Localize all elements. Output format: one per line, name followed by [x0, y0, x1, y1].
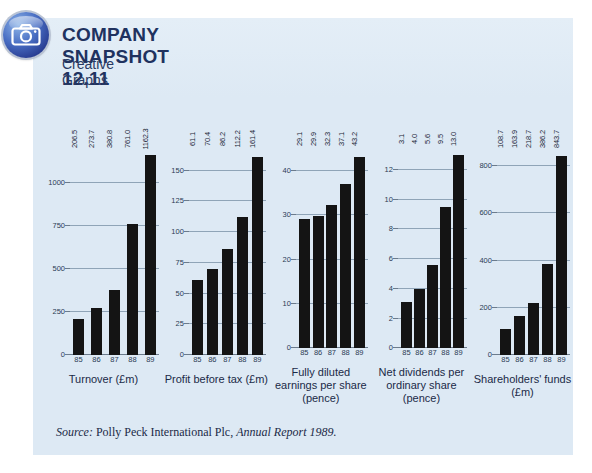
- y-tick-label: 600: [479, 208, 492, 217]
- y-tick-label: 10: [385, 194, 393, 203]
- chart-net-dividends: 024681012 3.14.05.69.513.0 8586878889 Ne…: [372, 140, 471, 405]
- bar-value-label: 206.5: [70, 130, 79, 148]
- x-labels-4: 8586878889: [398, 348, 467, 360]
- bar-group: 386.2: [542, 140, 553, 355]
- y-tick-label: 10: [283, 299, 291, 308]
- y-tick-label: 0: [488, 350, 492, 359]
- bar-group: 843.7: [556, 140, 567, 355]
- chart-caption-3: Fully diluted earnings per share (pence): [270, 366, 372, 405]
- bar: 5.6: [427, 265, 438, 348]
- bar: 218.7: [528, 303, 539, 355]
- bars-1: 206.5273.7380.8761.01162.3: [70, 140, 159, 355]
- bar-value-label: 29.1: [295, 132, 304, 146]
- y-tick-label: 150: [171, 165, 184, 174]
- plot-area-1: 02505007501000 206.5273.7380.8761.01162.…: [70, 140, 159, 355]
- bar-group: 29.9: [313, 140, 324, 348]
- y-tick-label: 8: [389, 224, 393, 233]
- x-tick-label: 89: [252, 355, 263, 367]
- bar-group: 61.1: [192, 140, 203, 355]
- bar-group: 1162.3: [145, 140, 156, 355]
- y-tick-label: 100: [171, 227, 184, 236]
- x-tick-label: 89: [453, 348, 464, 360]
- bar: 43.2: [354, 157, 365, 349]
- bar-value-label: 29.9: [309, 132, 318, 146]
- bar: 32.3: [326, 205, 337, 348]
- bar-value-label: 70.4: [203, 132, 212, 146]
- x-tick-label: 87: [109, 355, 120, 367]
- x-tick-label: 87: [222, 355, 233, 367]
- x-labels-5: 8586878889: [497, 355, 570, 367]
- bar-value-label: 43.2: [350, 132, 359, 146]
- bar-value-label: 161.4: [248, 130, 257, 148]
- chart-fully-diluted-earnings: 010203040 29.129.932.337.143.2 858687888…: [270, 140, 372, 405]
- plot-area-5: 0200400600800 108.7163.9218.7386.2843.7: [497, 140, 570, 355]
- bar-value-label: 4.0: [410, 134, 419, 144]
- chart-shareholders-funds: 0200400600800 108.7163.9218.7386.2843.7 …: [471, 140, 574, 405]
- bar-group: 218.7: [528, 140, 539, 355]
- bar: 108.7: [500, 329, 511, 355]
- bar-group: 37.1: [340, 140, 351, 348]
- y-tick-label: 500: [52, 264, 65, 273]
- bar-value-label: 9.5: [436, 134, 445, 144]
- y-tick-label: 50: [176, 288, 184, 297]
- y-tick-label: 125: [171, 196, 184, 205]
- y-tick-label: 750: [52, 221, 65, 230]
- bar-value-label: 13.0: [449, 132, 458, 146]
- bar-group: 206.5: [73, 140, 84, 355]
- chart-caption-4: Net dividends per ordinary share (pence): [372, 366, 471, 405]
- x-tick-label: 89: [354, 348, 365, 360]
- x-tick-label: 86: [414, 348, 425, 360]
- camera-icon: [3, 12, 49, 58]
- bars-2: 61.170.486.2112.2161.4: [189, 140, 266, 355]
- bar-group: 29.1: [299, 140, 310, 348]
- bar: 161.4: [252, 157, 263, 355]
- x-tick-label: 88: [340, 348, 351, 360]
- y-tick-label: 0: [389, 343, 393, 352]
- bar: 3.1: [401, 302, 412, 348]
- plot-area-3: 010203040 29.129.932.337.143.2: [296, 140, 368, 348]
- y-tick-label: 0: [287, 343, 291, 352]
- bar-group: 161.4: [252, 140, 263, 355]
- chart-profit-before-tax: 0255075100125150 61.170.486.2112.2161.4 …: [163, 140, 270, 405]
- x-tick-label: 89: [556, 355, 567, 367]
- bar: 86.2: [222, 249, 233, 355]
- bar-group: 108.7: [500, 140, 511, 355]
- y-tick-label: 20: [283, 254, 291, 263]
- x-labels-3: 8586878889: [296, 348, 368, 360]
- y-tick-label: 1000: [48, 178, 65, 187]
- bar-value-label: 761.0: [123, 130, 132, 148]
- bar-value-label: 108.7: [496, 130, 505, 148]
- y-tick-label: 0: [180, 350, 184, 359]
- plot-area-2: 0255075100125150 61.170.486.2112.2161.4: [189, 140, 266, 355]
- bar-group: 9.5: [440, 140, 451, 348]
- bar: 273.7: [91, 308, 102, 355]
- bar: 29.9: [313, 216, 324, 349]
- x-tick-label: 85: [299, 348, 310, 360]
- x-tick-label: 87: [326, 348, 337, 360]
- y-tick-label: 25: [176, 319, 184, 328]
- y-tick-label: 6: [389, 254, 393, 263]
- x-tick-label: 85: [73, 355, 84, 367]
- bar-value-label: 1162.3: [141, 128, 150, 149]
- bar: 163.9: [514, 316, 525, 355]
- y-tick-label: 200: [479, 302, 492, 311]
- x-tick-label: 86: [91, 355, 102, 367]
- x-tick-label: 89: [145, 355, 156, 367]
- x-tick-label: 85: [500, 355, 511, 367]
- bar-group: 380.8: [109, 140, 120, 355]
- y-tick-label: 4: [389, 283, 393, 292]
- bar: 29.1: [299, 219, 310, 348]
- chart-turnover: 02505007501000 206.5273.7380.8761.01162.…: [44, 140, 163, 405]
- y-tick-label: 75: [176, 257, 184, 266]
- bars-3: 29.129.932.337.143.2: [296, 140, 368, 348]
- bar-value-label: 218.7: [524, 130, 533, 148]
- bar-group: 43.2: [354, 140, 365, 348]
- x-tick-label: 88: [542, 355, 553, 367]
- bar-value-label: 112.2: [233, 130, 242, 147]
- source-line: Source: Polly Peck International Plc, An…: [56, 425, 337, 440]
- bar-group: 3.1: [401, 140, 412, 348]
- bar: 4.0: [414, 289, 425, 349]
- x-tick-label: 88: [440, 348, 451, 360]
- source-label: Source:: [56, 425, 93, 439]
- source-reference: Annual Report 1989.: [236, 425, 336, 439]
